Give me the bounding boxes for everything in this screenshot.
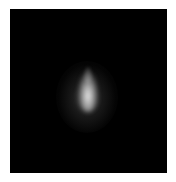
image-frame (10, 9, 167, 173)
bright-spot (78, 72, 98, 112)
